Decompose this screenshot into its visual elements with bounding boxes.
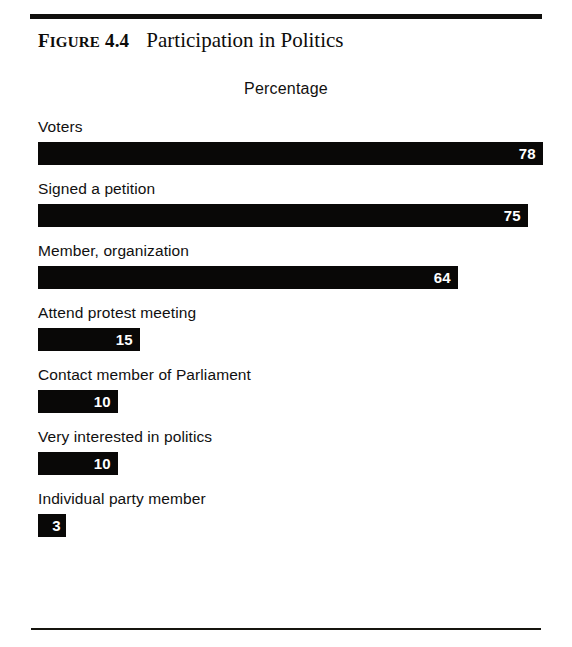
bar: 15 — [38, 328, 140, 351]
figure-word-initial: F — [38, 30, 50, 51]
bar: 10 — [38, 390, 118, 413]
bar-track: 75 — [38, 204, 528, 227]
bar-value: 3 — [52, 518, 66, 533]
bar-value: 10 — [94, 456, 118, 471]
figure-title-text: Participation in Politics — [146, 28, 343, 52]
figure-number-label: FIGURE 4.4 — [38, 30, 129, 51]
bar-label: Contact member of Parliament — [38, 366, 251, 384]
bar-group: Very interested in politics 10 — [38, 428, 548, 490]
bar-label: Individual party member — [38, 490, 206, 508]
bar: 10 — [38, 452, 118, 475]
bar: 75 — [38, 204, 528, 227]
bottom-rule — [31, 628, 541, 630]
bar-track: 64 — [38, 266, 458, 289]
bar: 3 — [38, 514, 66, 537]
bar-track: 3 — [38, 514, 66, 537]
bar: 78 — [38, 142, 543, 165]
bar-value: 75 — [504, 208, 528, 223]
figure-word-smallcaps: IGURE — [50, 34, 100, 50]
bar-value: 64 — [434, 270, 458, 285]
bar-group: Individual party member 3 — [38, 490, 548, 552]
bar-group: Attend protest meeting 15 — [38, 304, 548, 366]
bar-track: 78 — [38, 142, 543, 165]
figure-title: FIGURE 4.4Participation in Politics — [38, 28, 343, 53]
figure-number: 4.4 — [105, 30, 129, 51]
bar: 64 — [38, 266, 458, 289]
bar-label: Attend protest meeting — [38, 304, 196, 322]
top-rule — [30, 14, 542, 19]
bar-label: Signed a petition — [38, 180, 155, 198]
bar-group: Signed a petition 75 — [38, 180, 548, 242]
bar-track: 10 — [38, 390, 118, 413]
bar-group: Voters 78 — [38, 118, 548, 180]
figure-page: FIGURE 4.4Participation in Politics Perc… — [0, 0, 572, 647]
bar-label: Very interested in politics — [38, 428, 212, 446]
bar-label: Member, organization — [38, 242, 189, 260]
bar-group: Contact member of Parliament 10 — [38, 366, 548, 428]
bar-track: 15 — [38, 328, 140, 351]
bar-value: 10 — [94, 394, 118, 409]
bar-track: 10 — [38, 452, 118, 475]
bar-chart-plot: Voters 78 Signed a petition 75 Member, o… — [38, 118, 548, 552]
bar-group: Member, organization 64 — [38, 242, 548, 304]
bar-value: 15 — [116, 332, 140, 347]
bar-value: 78 — [519, 146, 543, 161]
bar-label: Voters — [38, 118, 83, 136]
axis-caption: Percentage — [0, 80, 572, 98]
